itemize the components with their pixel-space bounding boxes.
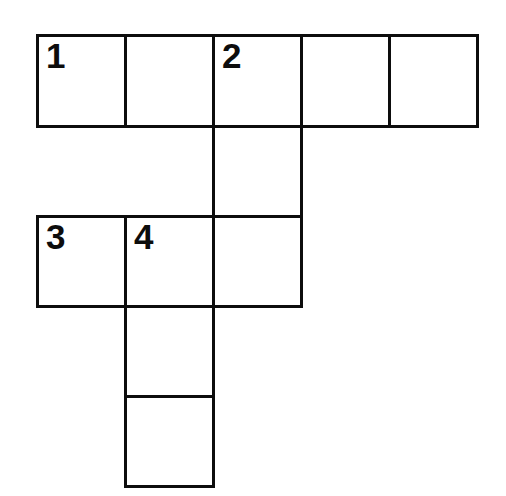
crossword-puzzle: 1234 [0, 0, 506, 496]
crossword-cell[interactable] [124, 395, 215, 488]
cell-number-4: 4 [134, 219, 153, 256]
crossword-cell[interactable]: 2 [212, 34, 303, 128]
crossword-cell[interactable] [212, 125, 303, 218]
cell-number-1: 1 [46, 38, 65, 75]
crossword-cell[interactable]: 4 [124, 215, 215, 308]
crossword-grid: 1234 [0, 0, 506, 496]
crossword-cell[interactable] [124, 305, 215, 398]
crossword-cell[interactable] [388, 34, 479, 128]
cell-number-3: 3 [46, 219, 65, 256]
crossword-cell[interactable] [124, 34, 215, 128]
crossword-cell[interactable] [212, 215, 303, 308]
crossword-cell[interactable] [300, 34, 391, 128]
cell-number-2: 2 [222, 38, 241, 75]
crossword-cell[interactable]: 1 [36, 34, 127, 128]
crossword-cell[interactable]: 3 [36, 215, 127, 308]
